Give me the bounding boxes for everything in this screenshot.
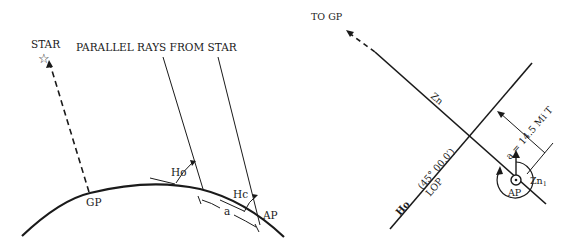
celestial-navigation-diagram: STAR ☆ PARALLEL RAYS FROM STAR GP Ho Hc … — [0, 0, 577, 249]
a-dimension-line-left — [202, 200, 220, 208]
star-label: STAR — [31, 38, 61, 50]
a-tick-left — [198, 196, 201, 204]
right-figure: TO GP Zn Ho (45° 00.0′) LOP a = 14.5 Mi … — [311, 11, 555, 229]
a-label: a — [224, 205, 230, 217]
zn-label: Zn — [429, 90, 446, 107]
star-to-gp-dashed-line — [50, 64, 89, 192]
zn-dashed-segment — [349, 33, 375, 52]
gp-label: GP — [86, 196, 101, 208]
a-tick-right — [255, 224, 259, 232]
ho-horizon-tangent — [150, 178, 175, 184]
parallel-rays-label: PARALLEL RAYS FROM STAR — [76, 41, 238, 53]
zn1-arc-arrowhead-icon — [496, 166, 503, 175]
ho-label: Ho — [171, 166, 186, 178]
hc-label: Hc — [233, 188, 248, 200]
to-gp-label: TO GP — [311, 11, 343, 22]
lop-ho-label: Ho — [393, 199, 411, 218]
a-dimension-line-right — [234, 215, 256, 227]
ap-center-dot-icon — [515, 179, 518, 182]
ap-label: AP — [262, 209, 278, 221]
left-figure: STAR ☆ PARALLEL RAYS FROM STAR GP Ho Hc … — [22, 38, 284, 237]
a-dimension-end-tick — [527, 143, 553, 174]
distance-label: a = 14.5 Mi T — [503, 104, 555, 161]
